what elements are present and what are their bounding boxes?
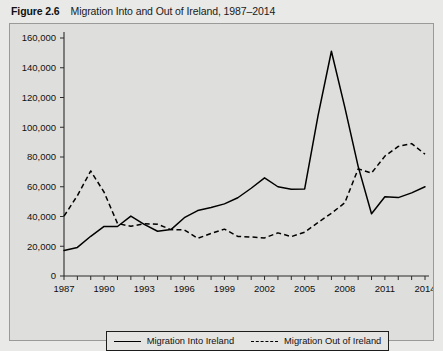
y-axis-tick-label: 0 [51, 270, 56, 281]
figure-number: Figure 2.6 [11, 5, 60, 17]
legend-swatch-dashed-line [251, 341, 278, 342]
legend-label-into: Migration Into Ireland [147, 336, 234, 346]
legend-item-migration-out-of-ireland: Migration Out of Ireland [251, 336, 381, 346]
chart-legend: Migration Into Ireland Migration Out of … [106, 331, 389, 351]
y-axis-tick-label: 140,000 [22, 62, 56, 73]
series-line-solid [64, 51, 425, 250]
plot-area: 020,00040,00060,00080,000100,000120,0001… [10, 24, 433, 340]
y-axis-tick-label: 160,000 [22, 32, 56, 43]
line-chart: 020,00040,00060,00080,000100,000120,0001… [10, 24, 433, 340]
y-axis-tick-label: 60,000 [27, 181, 56, 192]
legend-label-out: Migration Out of Ireland [284, 336, 381, 346]
y-axis-tick-label: 80,000 [27, 151, 56, 162]
x-axis-tick-label: 1999 [214, 283, 235, 294]
x-axis-tick-label: 1996 [174, 283, 195, 294]
x-axis-tick-label: 2005 [294, 283, 315, 294]
x-axis-tick-label: 1993 [134, 283, 155, 294]
legend-item-migration-into-ireland: Migration Into Ireland [114, 336, 234, 346]
figure-title: Migration Into and Out of Ireland, 1987–… [71, 5, 276, 17]
y-axis-tick-label: 40,000 [27, 211, 56, 222]
y-axis-tick-label: 20,000 [27, 241, 56, 252]
chart-panel: 020,00040,00060,00080,000100,000120,0001… [9, 23, 434, 341]
x-axis-tick-label: 2011 [375, 283, 395, 294]
x-axis-tick-label: 1990 [94, 283, 115, 294]
series-line-dashed [64, 144, 425, 239]
figure-container: Figure 2.6 Migration Into and Out of Ire… [0, 0, 443, 351]
x-axis-tick-label: 2014 [414, 283, 433, 294]
legend-swatch-solid-line [114, 341, 141, 342]
y-axis-tick-label: 100,000 [22, 122, 56, 133]
x-axis-tick-label: 2002 [254, 283, 275, 294]
x-axis-tick-label: 2008 [334, 283, 355, 294]
figure-caption: Figure 2.6 Migration Into and Out of Ire… [0, 0, 443, 22]
x-axis-tick-label: 1987 [53, 283, 74, 294]
y-axis-tick-label: 120,000 [22, 92, 56, 103]
